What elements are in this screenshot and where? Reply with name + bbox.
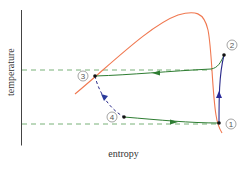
label-point-2: 2 [227, 40, 237, 50]
label-point-1: 1 [226, 119, 236, 129]
state-point-4 [122, 115, 126, 119]
arrow-down-icon [101, 94, 108, 101]
svg-text:1: 1 [229, 120, 234, 129]
label-point-3: 3 [78, 71, 88, 81]
svg-text:2: 2 [230, 41, 235, 50]
state-point-2 [222, 53, 226, 57]
y-axis-label: temperature [5, 48, 16, 96]
arrow-up-icon [216, 91, 222, 98]
process-3-to-4 [95, 76, 124, 117]
arrow-left-icon [152, 71, 160, 76]
process-1-to-2 [219, 55, 224, 123]
svg-text:3: 3 [81, 72, 86, 81]
x-axis-label: entropy [0, 148, 247, 159]
state-point-3 [93, 74, 97, 78]
label-point-4: 4 [107, 112, 117, 122]
svg-text:4: 4 [110, 113, 115, 122]
state-point-1 [217, 121, 221, 125]
ts-diagram: 1 2 3 4 [0, 0, 247, 171]
